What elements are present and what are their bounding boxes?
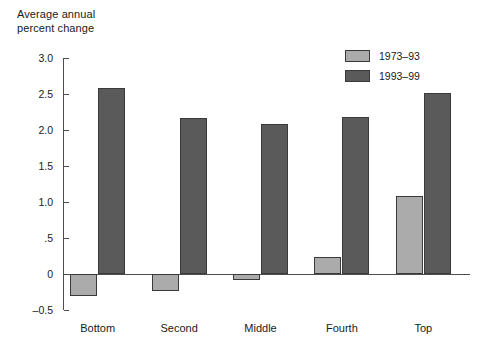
bar (424, 93, 451, 274)
legend-swatch (345, 50, 370, 62)
legend-item: 1993–99 (345, 68, 420, 83)
bar (180, 118, 207, 274)
y-axis-tick-label: 0 (47, 268, 53, 280)
legend-swatch (345, 70, 370, 82)
y-axis-tick-mark (64, 166, 69, 167)
bar-group (396, 58, 451, 310)
chart-legend: 1973–931993–99 (345, 48, 420, 88)
bar (342, 117, 369, 274)
bar-group (70, 58, 125, 310)
y-axis-tick-label: 2.5 (38, 88, 53, 100)
y-axis-tick-mark (64, 94, 69, 95)
y-axis-tick-label: 3.0 (38, 52, 53, 64)
y-axis-tick-label: –0.5 (33, 304, 53, 316)
y-axis-tick-mark (64, 238, 69, 239)
y-axis-tick-label: 1.0 (38, 196, 53, 208)
bar (70, 274, 97, 296)
bar (152, 274, 179, 291)
bar-chart-figure: Average annual percent change 3.02.52.01… (0, 0, 498, 352)
y-axis-tick-mark (64, 58, 69, 59)
x-axis-category-label: Bottom (80, 322, 115, 334)
y-axis-tick-mark (64, 202, 69, 203)
bar-group (314, 58, 369, 310)
bar (98, 88, 125, 274)
legend-item: 1973–93 (345, 48, 420, 63)
y-axis-tick-label: .5 (44, 232, 53, 244)
y-axis-title: Average annual percent change (17, 8, 95, 35)
bar-group (233, 58, 288, 310)
bar (233, 274, 260, 280)
legend-label: 1993–99 (379, 70, 420, 82)
bar (396, 196, 423, 274)
y-axis-tick-mark (64, 310, 69, 311)
legend-label: 1973–93 (379, 50, 420, 62)
bar (261, 124, 288, 274)
y-axis-tick-label: 1.5 (38, 160, 53, 172)
y-axis-tick-labels: 3.02.52.01.51.0.50–0.5 (8, 58, 63, 310)
x-axis-category-labels: BottomSecondMiddleFourthTop (63, 322, 470, 338)
bar-group (152, 58, 207, 310)
y-axis-tick-mark (64, 130, 69, 131)
x-axis-category-label: Fourth (326, 322, 358, 334)
x-axis-category-label: Second (160, 322, 197, 334)
y-axis-line (63, 58, 64, 310)
x-axis-category-label: Middle (244, 322, 276, 334)
x-axis-category-label: Top (414, 322, 432, 334)
plot-area: 3.02.52.01.51.0.50–0.5 (63, 58, 470, 310)
y-axis-tick-label: 2.0 (38, 124, 53, 136)
bar (314, 257, 341, 274)
